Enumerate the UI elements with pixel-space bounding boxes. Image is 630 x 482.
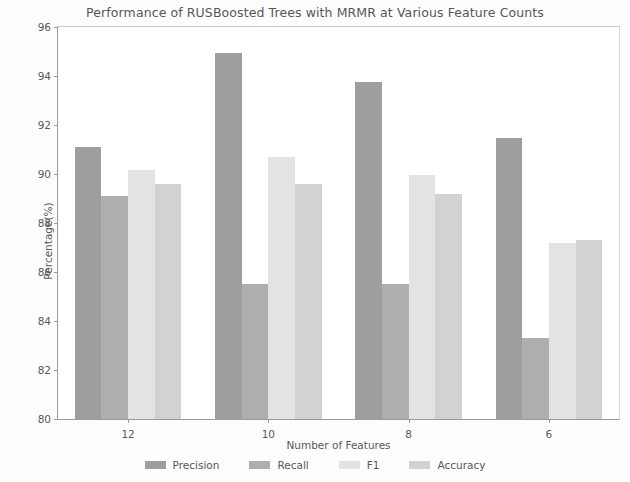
plot-area: 808284868890929496 121086: [57, 26, 620, 420]
chart-title: Performance of RUSBoosted Trees with MRM…: [0, 5, 630, 20]
bar-recall-12: [101, 196, 128, 419]
bar-f1-6: [549, 243, 576, 419]
legend-entry-precision[interactable]: Precision: [145, 459, 220, 471]
x-tick-mark: [128, 419, 129, 423]
figure: Performance of RUSBoosted Trees with MRM…: [0, 0, 630, 482]
y-tick-mark: [54, 419, 58, 420]
bar-f1-12: [128, 170, 155, 419]
legend-swatch-f1: [339, 461, 360, 469]
y-axis-label: Percentage(%): [42, 202, 54, 279]
bar-accuracy-12: [155, 184, 182, 419]
x-axis-label: Number of Features: [57, 439, 620, 451]
legend-label: Accuracy: [437, 459, 485, 471]
bar-recall-8: [382, 284, 409, 419]
bar-recall-6: [522, 338, 549, 419]
legend-label: Precision: [173, 459, 220, 471]
legend: PrecisionRecallF1Accuracy: [0, 459, 630, 471]
legend-swatch-accuracy: [409, 461, 430, 469]
legend-entry-accuracy[interactable]: Accuracy: [409, 459, 485, 471]
bar-accuracy-8: [435, 194, 462, 419]
legend-label: F1: [367, 459, 380, 471]
bar-f1-8: [409, 175, 436, 419]
legend-label: Recall: [277, 459, 308, 471]
bar-precision-6: [496, 138, 523, 419]
x-tick-mark: [549, 419, 550, 423]
legend-swatch-precision: [145, 461, 166, 469]
bars-layer: [58, 27, 619, 419]
bar-accuracy-6: [576, 240, 603, 419]
bar-f1-10: [268, 157, 295, 419]
bar-precision-10: [215, 53, 242, 419]
bar-precision-8: [355, 82, 382, 419]
bar-precision-12: [75, 147, 102, 419]
bar-recall-10: [242, 284, 269, 419]
legend-swatch-recall: [249, 461, 270, 469]
bar-accuracy-10: [295, 184, 322, 419]
x-tick-mark: [409, 419, 410, 423]
legend-entry-recall[interactable]: Recall: [249, 459, 308, 471]
x-tick-mark: [268, 419, 269, 423]
legend-entry-f1[interactable]: F1: [339, 459, 380, 471]
